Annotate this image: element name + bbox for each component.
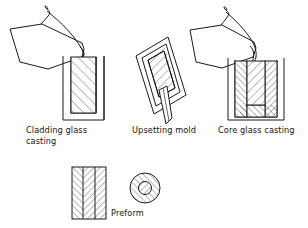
- caption-preform: Preform: [111, 208, 144, 218]
- ladle-handle-cladding: [41, 6, 50, 24]
- process-diagram: Cladding glass casting Upsetting mold: [0, 0, 308, 228]
- pour-stream-core: [226, 12, 256, 64]
- pour-stream-core-inner: [250, 46, 254, 62]
- stage-core-glass-casting: Core glass casting: [190, 7, 295, 135]
- cladding-melt-hatch: [71, 57, 96, 113]
- caption-cladding-line2: casting: [26, 136, 56, 146]
- stage-preform: Preform: [68, 163, 164, 223]
- stage-cladding-glass-casting: Cladding glass casting: [10, 6, 104, 146]
- figure-container: Cladding glass casting Upsetting mold: [0, 0, 308, 228]
- caption-cladding-line1: Cladding glass: [26, 125, 87, 135]
- caption-upsetting-mold: Upsetting mold: [132, 125, 196, 135]
- stage-upsetting-mold: Upsetting mold: [130, 35, 200, 135]
- caption-core-glass-casting: Core glass casting: [218, 125, 295, 135]
- ladle-handle-core: [221, 7, 229, 25]
